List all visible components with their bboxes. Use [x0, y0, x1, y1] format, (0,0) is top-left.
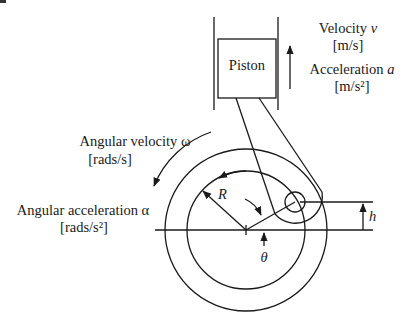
velocity-unit: [m/s] — [333, 37, 364, 53]
angular-velocity-unit: [rads/s] — [88, 151, 132, 167]
connecting-rod-left-edge — [236, 98, 275, 214]
crank-diagram: Piston Velocity v [m/s] Acceleration a [… — [0, 0, 402, 324]
acceleration-unit: [m/s²] — [335, 78, 370, 94]
angle-label: θ — [260, 249, 267, 265]
radius-label: R — [217, 186, 227, 202]
crank-arm — [246, 202, 295, 230]
angular-acceleration-label: Angular acceleration α — [17, 202, 150, 218]
angular-acceleration-unit: [rads/s²] — [60, 219, 108, 235]
velocity-label: Velocity v — [319, 20, 378, 36]
connecting-rod-right-edge — [259, 98, 322, 192]
acceleration-label: Acceleration a — [310, 61, 395, 77]
piston-label: Piston — [229, 57, 266, 73]
connecting-rod-big-end — [275, 192, 322, 223]
angular-velocity-label: Angular velocity ω — [79, 133, 190, 149]
height-label: h — [369, 208, 376, 224]
angle-arrow-upper-icon — [245, 199, 261, 215]
